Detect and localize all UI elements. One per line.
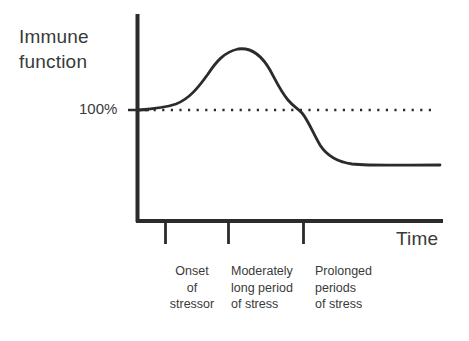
category-caption-moderate: Moderately long period of stress	[231, 263, 311, 313]
caption-line: Onset	[163, 263, 221, 280]
caption-line: of stress	[315, 296, 395, 313]
caption-line: of	[163, 280, 221, 297]
y-axis-tick-label-100: 100%	[79, 101, 117, 116]
immune-function-chart: Immune function 100% Time Onset of stres…	[0, 0, 469, 341]
y-axis-label-line1: Immune	[19, 27, 89, 46]
immune-function-curve	[139, 49, 440, 166]
caption-line: Moderately	[231, 263, 311, 280]
caption-line: long period	[231, 280, 311, 297]
y-axis-label-line2: function	[19, 52, 87, 71]
caption-line: periods	[315, 280, 395, 297]
caption-line: of stress	[231, 296, 311, 313]
category-caption-onset: Onset of stressor	[163, 263, 221, 313]
caption-line: stressor	[163, 296, 221, 313]
category-caption-prolonged: Prolonged periods of stress	[315, 263, 395, 313]
x-axis-label: Time	[396, 229, 438, 248]
caption-line: Prolonged	[315, 263, 395, 280]
